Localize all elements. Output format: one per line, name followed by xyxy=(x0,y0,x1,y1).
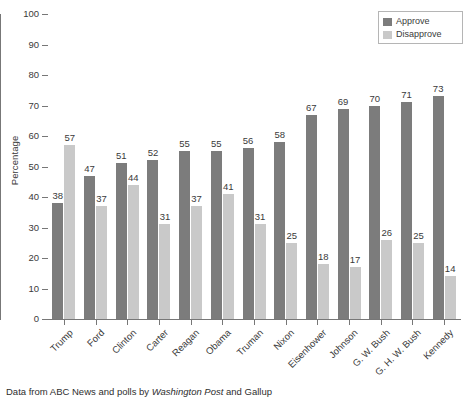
legend-swatch-disapprove xyxy=(383,31,392,39)
bar-disapprove xyxy=(286,243,297,319)
x-axis-tick xyxy=(222,320,223,325)
bar-value-label: 57 xyxy=(60,133,79,143)
bar-disapprove xyxy=(96,206,107,319)
bar-value-label: 41 xyxy=(219,182,238,192)
legend-entry-disapprove: Disapprove xyxy=(383,28,458,41)
bar-value-label: 70 xyxy=(365,94,384,104)
bar-value-label: 18 xyxy=(314,252,333,262)
bar-value-label: 31 xyxy=(251,212,270,222)
x-axis-label: Obama xyxy=(203,327,233,357)
bar-approve xyxy=(369,106,380,320)
caption-text-part1: Data from ABC News and polls by xyxy=(6,386,152,397)
x-axis-tick xyxy=(349,320,350,325)
bar-approve xyxy=(147,160,158,319)
x-axis-label: Carter xyxy=(143,327,169,353)
y-axis-title: Percentage xyxy=(9,101,20,221)
x-axis-tick xyxy=(286,320,287,325)
x-axis-label: Nixon xyxy=(272,327,297,352)
bar-disapprove xyxy=(318,264,329,319)
x-axis-tick xyxy=(64,320,65,325)
caption-source-italic: Washington Post xyxy=(152,386,224,397)
bar-disapprove xyxy=(350,267,361,319)
bar-disapprove xyxy=(255,224,266,319)
legend-label-approve: Approve xyxy=(396,17,430,26)
x-axis-tick xyxy=(381,320,382,325)
bar-value-label: 71 xyxy=(397,90,416,100)
bar-value-label: 25 xyxy=(282,231,301,241)
x-axis-label: Reagan xyxy=(170,327,201,358)
y-axis-tick xyxy=(42,319,48,320)
legend-entry-approve: Approve xyxy=(383,15,458,28)
x-axis-label: Clinton xyxy=(109,327,138,356)
bar-approve xyxy=(179,151,190,319)
legend-label-disapprove: Disapprove xyxy=(396,30,442,39)
bar-approve xyxy=(243,148,254,319)
bar-value-label: 31 xyxy=(155,212,174,222)
y-axis-tick-label: 10 xyxy=(0,284,39,294)
bar-approve xyxy=(401,102,412,319)
bar-value-label: 14 xyxy=(441,264,460,274)
y-axis-tick-label: 100 xyxy=(0,9,39,19)
bar-value-label: 55 xyxy=(207,139,226,149)
bar-value-label: 67 xyxy=(302,103,321,113)
x-axis-tick xyxy=(159,320,160,325)
y-axis-tick-label: 40 xyxy=(0,192,39,202)
chart-legend: Approve Disapprove xyxy=(378,11,463,44)
x-axis-label: Truman xyxy=(234,327,265,358)
bar-disapprove xyxy=(128,185,139,319)
chart-caption: Data from ABC News and polls by Washingt… xyxy=(6,386,272,397)
bar-value-label: 47 xyxy=(80,164,99,174)
x-axis-label: Trump xyxy=(48,327,75,354)
bar-approve xyxy=(306,115,317,319)
bar-value-label: 51 xyxy=(112,151,131,161)
x-axis-label: Ford xyxy=(85,327,107,349)
bar-value-label: 55 xyxy=(175,139,194,149)
bar-disapprove xyxy=(159,224,170,319)
bar-value-label: 25 xyxy=(409,231,428,241)
bar-disapprove xyxy=(64,145,75,319)
y-axis-tick-label: 60 xyxy=(0,131,39,141)
x-axis-tick xyxy=(127,320,128,325)
bar-disapprove xyxy=(223,194,234,319)
y-axis-tick-label: 20 xyxy=(0,253,39,263)
legend-swatch-approve xyxy=(383,18,392,26)
bar-approve xyxy=(116,163,127,319)
bar-disapprove xyxy=(413,243,424,319)
bar-value-label: 17 xyxy=(346,255,365,265)
bar-value-label: 44 xyxy=(124,173,143,183)
bar-value-label: 56 xyxy=(239,136,258,146)
x-axis-tick xyxy=(96,320,97,325)
x-axis-tick xyxy=(317,320,318,325)
plot-area: 3857473751445231553755415631582567186917… xyxy=(48,14,460,319)
bar-chart-figure: Percentage 1009080706050403020100 385747… xyxy=(0,0,469,405)
y-axis-tick-label: 70 xyxy=(0,101,39,111)
bar-value-label: 58 xyxy=(270,130,289,140)
bar-value-label: 73 xyxy=(429,84,448,94)
y-axis-tick-label: 90 xyxy=(0,40,39,50)
bar-approve xyxy=(338,109,349,319)
caption-text-part2: and Gallup xyxy=(223,386,272,397)
bar-value-label: 26 xyxy=(377,228,396,238)
y-axis-tick-label: 50 xyxy=(0,162,39,172)
x-axis-tick xyxy=(444,320,445,325)
bar-disapprove xyxy=(191,206,202,319)
bar-value-label: 69 xyxy=(334,97,353,107)
x-axis-tick xyxy=(412,320,413,325)
y-axis-tick-label: 80 xyxy=(0,70,39,80)
x-axis-tick xyxy=(254,320,255,325)
bar-approve xyxy=(52,203,63,319)
bar-approve xyxy=(211,151,222,319)
bar-disapprove xyxy=(381,240,392,319)
bar-approve xyxy=(433,96,444,319)
y-axis-tick-label: 30 xyxy=(0,223,39,233)
x-axis-label: Kennedy xyxy=(421,327,455,361)
bar-value-label: 37 xyxy=(92,194,111,204)
bar-value-label: 37 xyxy=(187,194,206,204)
bar-disapprove xyxy=(445,276,456,319)
y-axis-tick-label: 0 xyxy=(0,314,39,324)
bar-value-label: 52 xyxy=(143,148,162,158)
x-axis-tick xyxy=(191,320,192,325)
